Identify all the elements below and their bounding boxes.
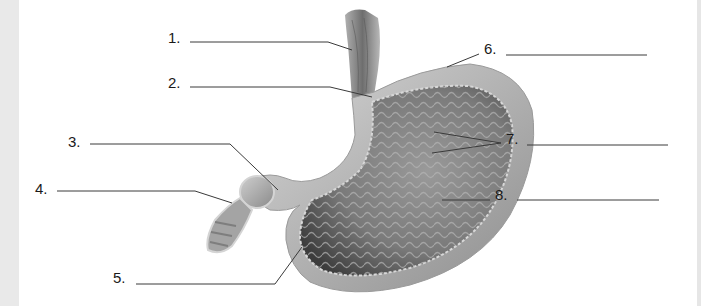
label-4: 4. xyxy=(35,181,48,196)
leader-line-4 xyxy=(57,191,232,203)
duodenum xyxy=(207,176,274,252)
label-7: 7. xyxy=(506,131,519,146)
label-3: 3. xyxy=(68,134,81,149)
label-6: 6. xyxy=(484,41,497,56)
label-5: 5. xyxy=(113,270,126,285)
label-1: 1. xyxy=(168,30,181,45)
esophagus xyxy=(345,10,380,100)
leader-line-2 xyxy=(190,87,372,97)
label-8: 8. xyxy=(495,187,508,202)
label-2: 2. xyxy=(168,75,181,90)
leader-line-1 xyxy=(190,42,352,50)
stomach-illustration xyxy=(0,0,701,306)
